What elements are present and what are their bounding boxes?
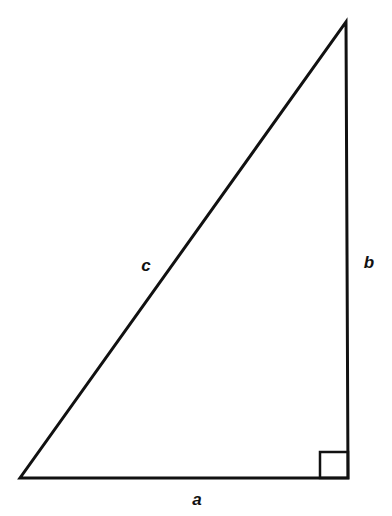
right-triangle-diagram <box>0 0 392 516</box>
vertical-leg-label-b: b <box>364 254 374 271</box>
horizontal-leg-label-a: a <box>192 491 201 508</box>
hypotenuse-label-c: c <box>141 257 150 274</box>
right-angle-marker <box>320 452 348 478</box>
triangle-outline <box>20 22 348 478</box>
